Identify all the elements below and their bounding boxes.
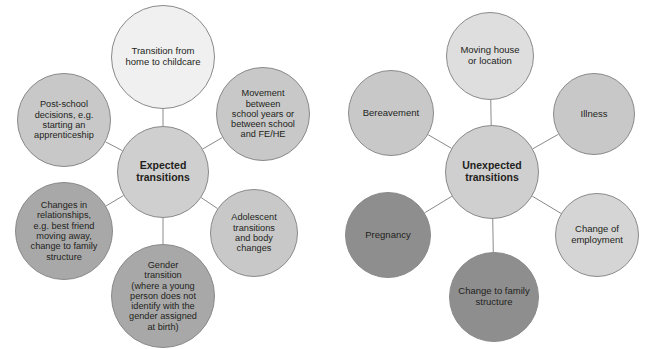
bubble-label: Movement between school years or between… [217,88,309,139]
bubble-label: Moving house or location [447,45,533,66]
bubble-illness: Illness [553,73,635,155]
bubble-change-of-employment: Change of employment [555,193,639,277]
connector-unexpected-to-change-to-family-structure [493,219,494,252]
connector-expected-to-post-school-decisions [106,142,123,151]
connector-expected-to-changes-in-relationships [106,196,123,206]
connector-lines [0,0,652,349]
bubble-pregnancy: Pregnancy [345,192,431,278]
bubble-change-to-family-structure: Change to family structure [449,252,539,342]
bubble-label: Gender transition (where a young person … [112,260,214,332]
bubble-label: Unexpected transitions [446,160,538,184]
bubble-label: Changes in relationships, e.g. best frie… [16,200,112,262]
bubble-movement-between-school: Movement between school years or between… [216,67,310,161]
hub-unexpected: Unexpected transitions [445,125,539,219]
bubble-label: Change of employment [556,224,638,245]
bubble-label: Expected transitions [118,160,208,184]
connector-expected-to-movement-between-school [203,138,223,149]
bubble-label: Pregnancy [346,230,430,241]
transitions-diagram: Transition from home to childcareMovemen… [0,0,652,349]
bubble-label: Adolescent transitions and body changes [211,212,297,253]
connector-unexpected-to-pregnancy [425,196,452,212]
hub-expected: Expected transitions [117,126,209,218]
bubble-bereavement: Bereavement [348,70,434,156]
connector-unexpected-to-change-of-employment [532,196,561,213]
bubble-adolescent-transitions: Adolescent transitions and body changes [210,189,298,277]
bubble-label: Transition from home to childcare [112,46,214,67]
connector-unexpected-to-bereavement [428,135,451,149]
bubble-changes-in-relationships: Changes in relationships, e.g. best frie… [15,182,113,280]
bubble-label: Bereavement [349,108,433,119]
connector-unexpected-to-illness [533,134,559,149]
bubble-transition-home-to-childcare: Transition from home to childcare [111,5,215,109]
bubble-label: Illness [554,109,634,120]
bubble-label: Change to family structure [450,286,538,307]
bubble-label: Post-school decisions, e.g. starting an … [18,99,110,140]
connector-expected-to-adolescent-transitions [201,198,217,209]
bubble-moving-house-or-location: Moving house or location [446,12,534,100]
bubble-post-school-decisions: Post-school decisions, e.g. starting an … [17,73,111,167]
bubble-gender-transition: Gender transition (where a young person … [111,244,215,348]
